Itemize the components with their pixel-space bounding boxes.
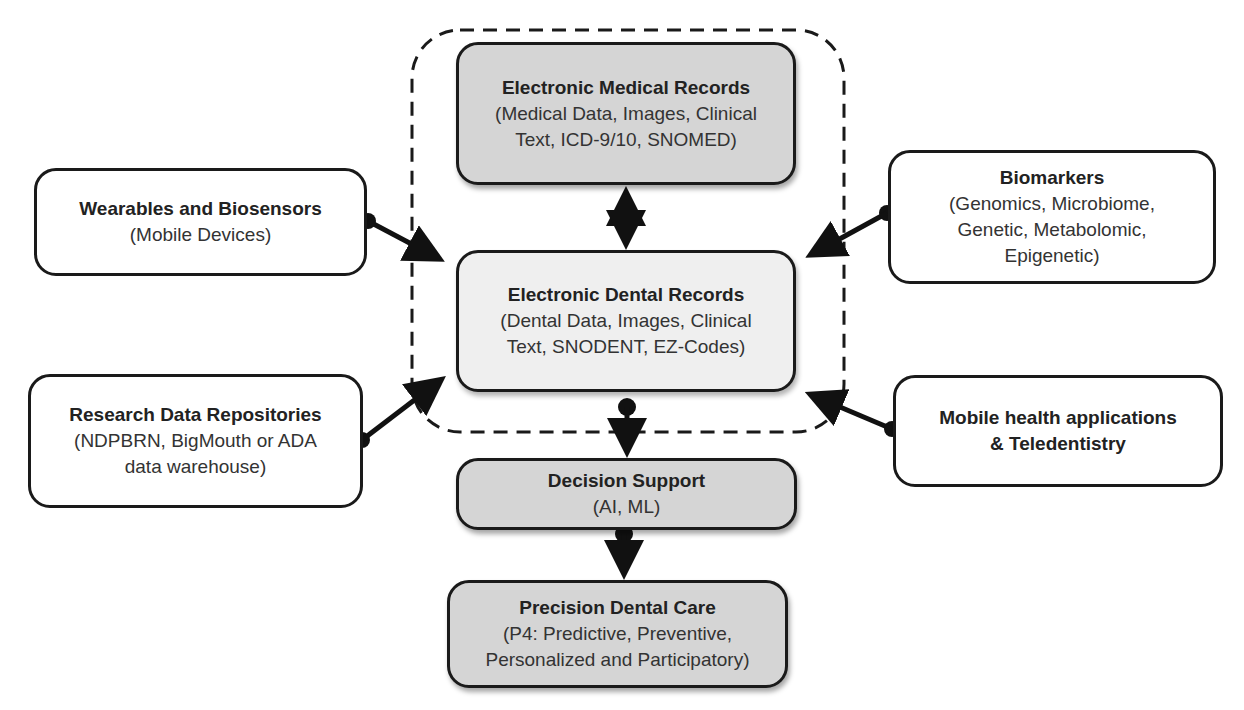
wearables-title: Wearables and Biosensors (79, 196, 322, 222)
edr-title: Electronic Dental Records (508, 282, 745, 308)
research-arrow (362, 382, 438, 440)
biomarkers-arrow (814, 213, 887, 253)
research-subtitle: (NDPBRN, BigMouth or ADA data warehouse) (74, 428, 317, 480)
mobile-health-box: Mobile health applications & Teledentist… (893, 375, 1223, 487)
decision-support-subtitle: (AI, ML) (593, 494, 661, 520)
research-box: Research Data Repositories (NDPBRN, BigM… (28, 374, 363, 508)
emr-title: Electronic Medical Records (502, 75, 750, 101)
wearables-arrow (368, 221, 436, 257)
wearables-box: Wearables and Biosensors (Mobile Devices… (34, 168, 367, 276)
mobile-health-title: Mobile health applications & Teledentist… (939, 405, 1177, 457)
precision-care-box: Precision Dental Care (P4: Predictive, P… (447, 580, 788, 688)
biomarkers-subtitle: (Genomics, Microbiome, Genetic, Metabolo… (949, 191, 1155, 269)
emr-box: Electronic Medical Records (Medical Data… (456, 42, 796, 185)
biomarkers-box: Biomarkers (Genomics, Microbiome, Geneti… (888, 150, 1216, 284)
mobile-health-arrow (814, 396, 892, 429)
wearables-subtitle: (Mobile Devices) (130, 222, 271, 248)
precision-care-title: Precision Dental Care (519, 595, 715, 621)
biomarkers-title: Biomarkers (1000, 165, 1105, 191)
research-title: Research Data Repositories (69, 402, 321, 428)
emr-subtitle: (Medical Data, Images, Clinical Text, IC… (495, 101, 757, 153)
precision-care-subtitle: (P4: Predictive, Preventive, Personalize… (485, 621, 749, 673)
edr-subtitle: (Dental Data, Images, Clinical Text, SNO… (500, 308, 751, 360)
decision-support-box: Decision Support (AI, ML) (456, 458, 797, 530)
decision-support-title: Decision Support (548, 468, 705, 494)
edr-box: Electronic Dental Records (Dental Data, … (456, 250, 796, 392)
